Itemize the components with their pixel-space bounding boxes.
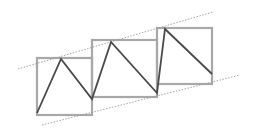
trend-channel-diagram — [0, 0, 255, 138]
zigzag-path — [37, 29, 212, 113]
box-3 — [157, 28, 212, 84]
lower-trend-line — [42, 75, 240, 125]
box-1 — [37, 58, 92, 115]
box-group — [37, 28, 212, 115]
